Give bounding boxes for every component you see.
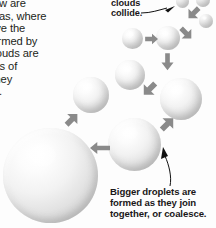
droplet-large-2 xyxy=(108,118,161,171)
droplet-small-1 xyxy=(122,28,143,49)
droplet-medium-2 xyxy=(73,77,109,113)
leader-line-bottom xyxy=(156,147,176,187)
callout-clouds-collide: clouds collide. xyxy=(111,0,142,19)
droplet-largest xyxy=(3,128,98,223)
arrow-left-1 xyxy=(90,141,110,155)
arrow-down-left-2 xyxy=(157,114,176,133)
callout-bigger-droplets: Bigger droplets are formed as they join … xyxy=(110,186,206,220)
arrow-down-left-1 xyxy=(178,24,195,41)
arrow-down-1 xyxy=(161,53,174,71)
arrow-down-right-2 xyxy=(141,80,160,99)
leader-line-top xyxy=(141,4,177,18)
arrow-down-right-1 xyxy=(186,5,203,22)
arrow-right-1 xyxy=(145,33,159,45)
droplet-small-2 xyxy=(156,26,180,50)
figure-canvas: nd snow are cal areas, where ly above th… xyxy=(0,0,216,228)
arrow-down-left-3 xyxy=(62,110,80,128)
